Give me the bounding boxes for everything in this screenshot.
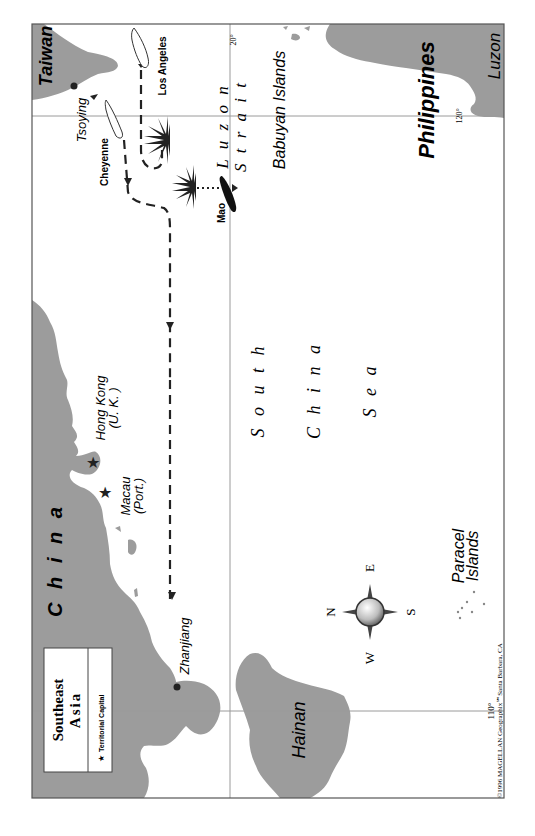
torpedo-arrow	[232, 184, 238, 192]
tsoying-dot-icon	[71, 83, 78, 90]
route-cheyenne	[124, 140, 170, 380]
ship-small-marker-icon	[90, 94, 98, 100]
label-zhanjiang: Zhanjiang	[177, 617, 192, 676]
compass-rose: N E S W	[323, 564, 418, 664]
island-coast-2	[128, 540, 137, 555]
island-coast-3	[134, 588, 138, 597]
ship-los-angeles-icon	[132, 28, 149, 68]
label-hong-kong-line2: (U. K. )	[106, 387, 121, 428]
label-taiwan: Taiwan	[36, 26, 56, 86]
compass-n-label: N	[323, 607, 338, 617]
label-luzon: Luzon	[485, 33, 504, 79]
label-china: C h i n a	[44, 503, 66, 617]
label-sea: S e a	[360, 363, 380, 418]
hong-kong-star-icon: ★	[86, 454, 100, 471]
label-paracel-line2: Islands	[464, 531, 481, 582]
island-babuyan-2	[304, 26, 310, 31]
legend-title-line2: Asia	[67, 692, 83, 728]
label-china-sea-china: C h i n a	[304, 341, 324, 439]
island-coast-1	[115, 526, 121, 532]
arrow-head-2	[166, 322, 174, 330]
paracel-islands-dots	[457, 591, 485, 619]
arrow-head-1	[124, 178, 132, 186]
explosion-2-icon	[172, 165, 196, 209]
label-hainan: Hainan	[289, 701, 309, 758]
label-luzon-strait-line2: S t r a i t	[231, 80, 250, 172]
macau-star-icon: ★	[98, 484, 112, 501]
legend-star-icon: ★	[97, 755, 106, 762]
label-mao: Mao	[216, 203, 227, 223]
label-lat-20: 20°	[229, 34, 238, 45]
compass-e-label: E	[362, 564, 377, 572]
zhanjiang-dot-icon	[174, 684, 181, 691]
label-tsoying: Tsoying	[74, 97, 89, 142]
label-los-angeles: Los Angeles	[157, 36, 168, 96]
label-lon-120: 120°	[455, 108, 464, 123]
label-philippines: Philippines	[414, 41, 439, 158]
ship-cheyenne-icon	[105, 100, 122, 138]
legend: Southeast Asia ★ Territorial Capital	[44, 648, 112, 772]
explosion-1-icon	[144, 116, 170, 164]
island-babuyan-3	[283, 26, 288, 30]
legend-item-label: Territorial Capital	[98, 695, 106, 752]
label-cheyenne: Cheyenne	[99, 138, 110, 186]
map-credit: ©1996 MAGELLAN Geographix℠Santa Barbara,…	[496, 643, 504, 798]
label-macau-line2: (Port.)	[131, 478, 146, 514]
legend-title-line1: Southeast	[50, 679, 66, 742]
label-luzon-strait-line1: L u z o n	[213, 83, 232, 169]
southeast-asia-map: ★ ★ Southeast Asia ★ Territorial Capital…	[0, 0, 535, 836]
label-babuyan-islands: Babuyan Islands	[271, 51, 288, 169]
label-south: S o u t h	[248, 342, 268, 437]
label-lon-110: 110°	[486, 702, 496, 719]
compass-s-label: S	[403, 608, 418, 615]
island-babuyan-1	[291, 34, 300, 41]
compass-w-label: W	[362, 651, 377, 664]
